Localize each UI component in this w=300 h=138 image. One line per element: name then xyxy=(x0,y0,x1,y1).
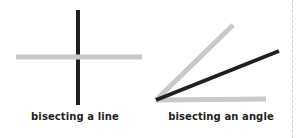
bisection-figure: bisecting a line bisecting an angle xyxy=(0,0,300,138)
line-diagram-svg xyxy=(0,0,150,110)
dashed-divider xyxy=(292,0,293,138)
angle-diagram-svg xyxy=(150,0,292,110)
angle-bisector xyxy=(156,51,279,100)
panel-bisecting-a-line: bisecting a line xyxy=(0,0,150,138)
angle-ray-upper xyxy=(156,25,233,100)
line-diagram-canvas xyxy=(0,0,150,110)
panel-bisecting-an-angle: bisecting an angle xyxy=(150,0,292,138)
angle-diagram-canvas xyxy=(150,0,292,110)
caption-bisecting-an-angle: bisecting an angle xyxy=(150,110,292,124)
caption-bisecting-a-line: bisecting a line xyxy=(0,110,150,124)
angle-ray-base xyxy=(156,99,266,100)
